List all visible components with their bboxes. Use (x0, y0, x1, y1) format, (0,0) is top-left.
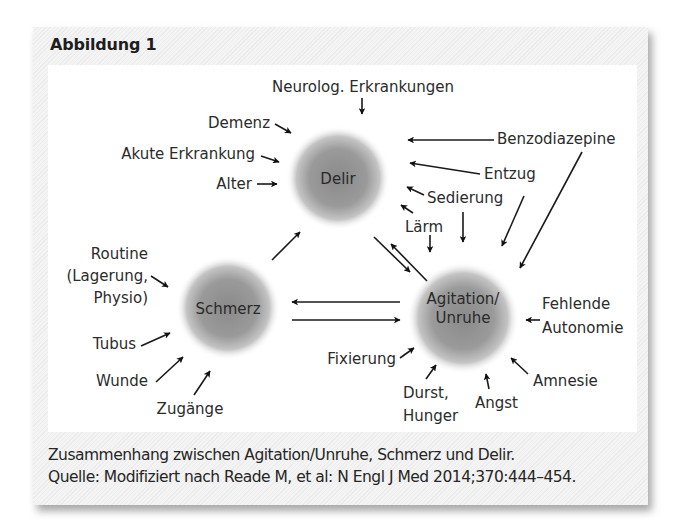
label-zugaenge: Zugänge (157, 400, 224, 418)
arrow-entzug-delir (410, 163, 480, 174)
arrow-durst-agitation (426, 365, 436, 379)
label-routine-line2: (Lagerung, (66, 267, 148, 285)
label-fehlende-line1: Fehlende (542, 295, 610, 313)
caption-line-2: Quelle: Modifiziert nach Reade M, et al:… (48, 466, 576, 488)
arrow-tubus-schmerz (141, 333, 170, 346)
schmerz-label: Schmerz (195, 300, 260, 318)
arrow-agitation-delir (391, 244, 427, 281)
label-durst-line2: Hunger (403, 407, 459, 425)
label-demenz: Demenz (208, 114, 270, 132)
arrow-sedierung-delir (407, 187, 424, 195)
figure-caption: Zusammenhang zwischen Agitation/Unruhe, … (48, 444, 576, 488)
label-durst-line1: Durst, (403, 384, 449, 402)
arrow-laerm-delir (401, 205, 413, 213)
arrow-zugaenge-schmerz (194, 371, 210, 395)
label-alter: Alter (216, 175, 253, 193)
arrow-schmerz-delir (272, 232, 300, 260)
label-fixierung: Fixierung (327, 350, 396, 368)
arrow-angst-agitation (486, 374, 489, 389)
arrow-demenz-delir (275, 124, 291, 133)
label-amnesie: Amnesie (533, 372, 598, 390)
diagram: Delir Schmerz Agitation/ Unruhe Neurolog… (0, 0, 696, 520)
label-benzodiazepine: Benzodiazepine (497, 130, 615, 148)
arrow-fixierung-agitation (400, 348, 414, 358)
label-wunde: Wunde (96, 372, 148, 390)
label-tubus: Tubus (92, 335, 136, 353)
arrow-routine-schmerz (151, 276, 168, 287)
label-neurolog: Neurolog. Erkrankungen (272, 78, 454, 96)
arrow-entzug-agitation (502, 196, 524, 246)
arrow-wunde-schmerz (156, 357, 183, 382)
arrow-akute-delir (261, 156, 279, 162)
node-schmerz: Schmerz (176, 256, 280, 360)
label-sedierung: Sedierung (427, 189, 503, 207)
arrow-amnesie-agitation (511, 358, 528, 374)
node-delir: Delir (286, 126, 390, 230)
label-entzug: Entzug (484, 165, 536, 183)
label-akute: Akute Erkrankung (121, 145, 255, 163)
label-angst: Angst (475, 394, 518, 412)
delir-label: Delir (320, 170, 356, 188)
agitation-label-line1: Agitation/ (427, 290, 501, 308)
label-laerm: Lärm (405, 218, 443, 236)
caption-line-1: Zusammenhang zwischen Agitation/Unruhe, … (48, 444, 576, 466)
label-routine-line3: Physio) (94, 289, 148, 307)
label-fehlende-line2: Autonomie (542, 319, 624, 337)
agitation-label-line2: Unruhe (436, 309, 491, 327)
arrow-delir-agitation (374, 237, 410, 272)
label-routine-line1: Routine (91, 245, 148, 263)
